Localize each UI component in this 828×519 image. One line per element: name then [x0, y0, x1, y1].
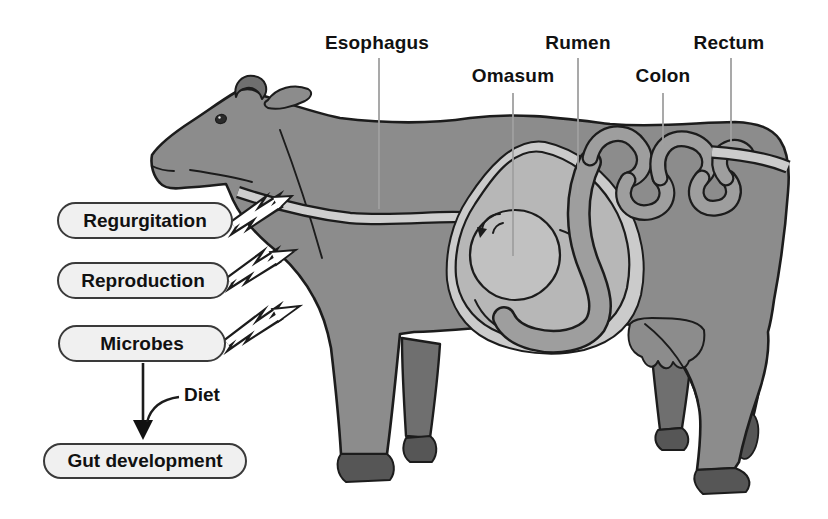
lightning-arrow-reproduction: [229, 250, 296, 281]
front-far-leg: [402, 338, 440, 438]
pill-reproduction: Reproduction: [57, 262, 229, 299]
eye-glint: [218, 116, 220, 118]
diet-merge-curve: [147, 397, 179, 422]
label-esophagus: Esophagus: [325, 32, 429, 54]
label-colon: Colon: [636, 65, 691, 87]
hind-near-hoof: [694, 468, 749, 494]
cow-illustration: [0, 0, 828, 519]
ear: [265, 86, 312, 108]
label-rectum: Rectum: [694, 32, 765, 54]
front-near-hoof: [338, 454, 394, 482]
pill-regurgitation: Regurgitation: [57, 202, 233, 239]
hind-far-hoof: [655, 428, 688, 450]
label-omasum: Omasum: [472, 65, 555, 87]
pill-microbes: Microbes: [58, 325, 226, 362]
front-far-hoof: [403, 436, 436, 462]
pill-gut-development: Gut development: [43, 443, 247, 479]
cow-digestive-diagram: Esophagus Omasum Rumen Colon Rectum Regu…: [0, 0, 828, 519]
diet-arrow: [133, 363, 179, 440]
label-rumen: Rumen: [545, 32, 610, 54]
lightning-arrow-microbes: [227, 306, 300, 343]
label-diet: Diet: [184, 384, 220, 406]
